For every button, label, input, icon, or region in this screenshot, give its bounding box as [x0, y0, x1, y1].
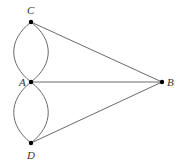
edge-c-a-right [31, 22, 48, 82]
node-c [29, 20, 33, 24]
edge-a-d-right [31, 82, 48, 143]
label-b: B [167, 76, 174, 88]
graph-diagram: C A D B [0, 0, 178, 166]
label-c: C [27, 4, 35, 16]
edge-d-b [31, 82, 162, 143]
node-a [29, 80, 33, 84]
node-d [29, 141, 33, 145]
edge-c-b [31, 22, 162, 82]
node-b [160, 80, 164, 84]
label-d: D [26, 149, 35, 161]
edge-a-d-left [14, 82, 31, 143]
label-a: A [18, 76, 26, 88]
edge-c-a-left [14, 22, 31, 82]
